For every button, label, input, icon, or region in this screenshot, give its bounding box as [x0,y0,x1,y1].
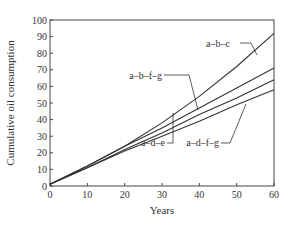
data-lines [50,33,274,184]
series-label: a–d–f–g [186,137,219,148]
leader-line [164,75,198,110]
x-tick-label: 50 [232,189,242,200]
x-axis-label: Years [150,204,175,216]
y-tick-label: 80 [37,48,47,59]
y-axis-label: Cumulative oil consumption [4,40,16,166]
series-label: a–d–e [141,137,165,148]
x-tick-label: 60 [269,189,279,200]
series-line-0 [50,33,274,184]
series-label: a–b–f–g [129,70,162,81]
y-tick-label: 50 [37,98,47,109]
y-tick-label: 0 [42,181,47,192]
y-tick-label: 40 [37,114,47,125]
y-tick-label: 30 [37,131,47,142]
x-tick-label: 40 [194,189,204,200]
x-tick-label: 30 [157,189,167,200]
y-tick-label: 70 [37,64,47,75]
x-tick-label: 20 [120,189,130,200]
plot-axes: 01020304050600102030405060708090100 [32,15,279,201]
series-line-2 [50,80,274,185]
series-line-1 [50,68,274,184]
x-tick-label: 10 [82,189,92,200]
leader-line [240,43,257,55]
x-tick-label: 0 [48,189,53,200]
series-label: a–b–c [206,38,230,49]
y-tick-label: 10 [37,164,47,175]
y-tick-label: 90 [37,31,47,42]
y-tick-label: 100 [32,15,47,26]
y-tick-label: 20 [37,147,47,158]
y-tick-label: 60 [37,81,47,92]
chart: 01020304050600102030405060708090100 a–b–… [0,0,294,226]
